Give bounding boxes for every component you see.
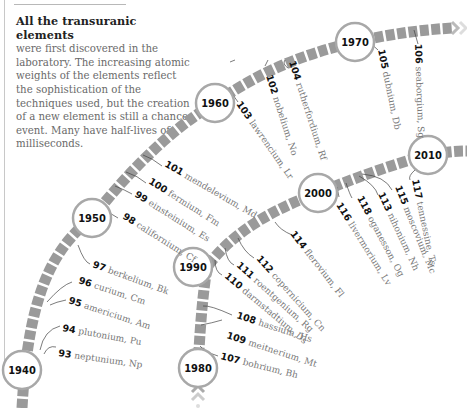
year-circle-1980: 1980: [179, 349, 217, 387]
element-label-105: 105dubnium, Db: [376, 48, 404, 131]
svg-text:2000: 2000: [304, 187, 332, 200]
year-circle-1960: 1960: [196, 84, 234, 122]
svg-text:114flerovium, Fl: 114flerovium, Fl: [288, 228, 347, 299]
svg-text:94plutonium, Pu: 94plutonium, Pu: [62, 322, 143, 347]
svg-text:106seaborgium, Sg: 106seaborgium, Sg: [413, 44, 427, 139]
timeline-diagram: 1940 1950 1960 1970 1980 1990 2000 2010 …: [0, 0, 467, 408]
year-circle-2010: 2010: [409, 136, 447, 174]
svg-text:1940: 1940: [8, 364, 36, 377]
svg-text:1960: 1960: [201, 97, 229, 110]
svg-text:93neptunium, Np: 93neptunium, Np: [58, 347, 144, 370]
element-label-93: 93neptunium, Np: [58, 347, 144, 370]
svg-text:1950: 1950: [78, 212, 106, 225]
svg-text:1970: 1970: [341, 36, 369, 49]
year-circle-1940: 1940: [3, 351, 41, 389]
svg-text:105dubnium, Db: 105dubnium, Db: [376, 48, 404, 131]
year-circle-1970: 1970: [336, 23, 374, 61]
element-label-114: 114flerovium, Fl: [288, 228, 347, 299]
year-circle-2000: 2000: [299, 174, 337, 212]
svg-text:2010: 2010: [414, 149, 442, 162]
svg-text:101mendelevium, Md: 101mendelevium, Md: [163, 158, 259, 220]
element-label-94: 94plutonium, Pu: [62, 322, 143, 347]
element-label-101: 101mendelevium, Md: [163, 158, 259, 220]
year-circle-1950: 1950: [73, 199, 111, 237]
svg-text:1980: 1980: [184, 362, 212, 375]
svg-text:98californium, Cf: 98californium, Cf: [121, 210, 199, 264]
element-label-106: 106seaborgium, Sg: [413, 44, 427, 139]
element-label-98: 98californium, Cf: [121, 210, 199, 264]
